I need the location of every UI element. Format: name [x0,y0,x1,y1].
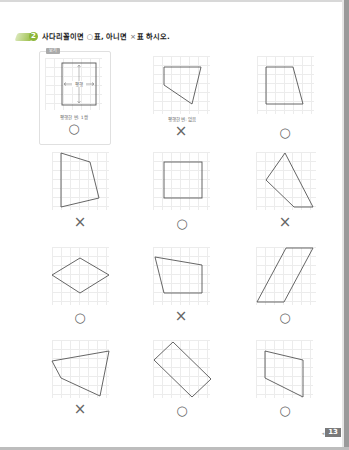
page-dots-icon: ◂ [322,430,325,436]
page-number: 13 [325,428,341,437]
trapezoid-shape [0,0,349,450]
page-number-badge: ◂ 13 [322,428,341,437]
answer-mark: ○ [275,403,295,418]
